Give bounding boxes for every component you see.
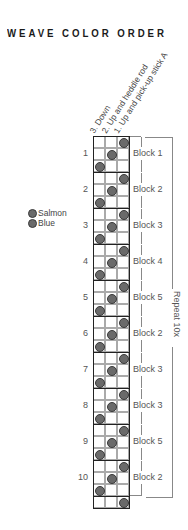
grid-cell — [117, 484, 129, 496]
grid-cell — [93, 280, 105, 292]
grid-cell — [93, 172, 105, 184]
thread-dot-icon — [95, 270, 105, 280]
grid-cell — [105, 268, 117, 280]
block-bracket-line — [141, 484, 142, 496]
grid-cell — [105, 424, 117, 436]
thread-dot-icon — [95, 306, 105, 316]
block-number: 6 — [74, 328, 88, 338]
grid-cell — [117, 232, 129, 244]
grid-cell — [105, 160, 117, 172]
grid-cell — [117, 316, 129, 328]
grid-cell — [117, 220, 129, 232]
thread-dot-icon — [119, 138, 129, 148]
block-number: 1 — [74, 148, 88, 158]
block-label: Block 2 — [133, 184, 163, 194]
grid-cell — [105, 328, 117, 340]
thread-dot-icon — [95, 162, 105, 172]
grid-cell — [105, 184, 117, 196]
thread-dot-icon — [119, 282, 129, 292]
block-label: Block 4 — [133, 256, 163, 266]
thread-dot-icon — [107, 294, 117, 304]
grid-cell — [105, 460, 117, 472]
repeat-label: Repeat 10x — [172, 291, 182, 337]
block-bracket-line — [141, 448, 142, 460]
grid-cell — [105, 220, 117, 232]
block-bracket-line — [141, 160, 142, 172]
grid-cell — [105, 352, 117, 364]
repeat-bracket-bottom — [146, 497, 173, 498]
grid-cell — [105, 172, 117, 184]
grid-cell — [105, 388, 117, 400]
block-bracket-bottom — [130, 495, 141, 496]
grid-cell — [117, 424, 129, 436]
diagram-title: WEAVE COLOR ORDER — [7, 27, 167, 39]
grid-cell — [117, 328, 129, 340]
grid-cell — [93, 220, 105, 232]
grid-cell — [93, 340, 105, 352]
grid-cell — [93, 364, 105, 376]
thread-dot-icon — [95, 198, 105, 208]
thread-dot-icon — [119, 318, 129, 328]
grid-cell — [93, 304, 105, 316]
grid-cell — [105, 400, 117, 412]
legend-item-salmon: Salmon — [28, 208, 67, 218]
block-bracket-line — [141, 376, 142, 388]
block-bracket-line — [141, 304, 142, 316]
block-number: 9 — [74, 436, 88, 446]
thread-dot-icon — [95, 486, 105, 496]
block-bracket-line — [141, 353, 142, 363]
thread-dot-icon — [119, 174, 129, 184]
grid-cell — [93, 496, 105, 508]
grid-cell — [117, 256, 129, 268]
grid-cell — [105, 292, 117, 304]
grid-cell — [117, 172, 129, 184]
grid-cell — [105, 412, 117, 424]
grid-cell — [93, 256, 105, 268]
block-bracket-line — [141, 173, 142, 183]
grid-cell — [117, 196, 129, 208]
block-bracket-top — [130, 136, 141, 137]
grid-cell — [105, 316, 117, 328]
grid-cell — [93, 400, 105, 412]
grid-cell — [117, 208, 129, 220]
block-bracket-line — [141, 425, 142, 435]
grid-cell — [93, 448, 105, 460]
grid-cell — [93, 196, 105, 208]
block-bracket-line — [141, 389, 142, 399]
grid-cell — [93, 412, 105, 424]
block-bracket-line — [141, 317, 142, 327]
block-label: Block 5 — [133, 292, 163, 302]
grid-cell — [105, 496, 117, 508]
grid-cell — [105, 136, 117, 148]
block-bracket-line — [141, 245, 142, 255]
grid-cell — [117, 160, 129, 172]
grid-cell — [117, 292, 129, 304]
grid-cell — [93, 184, 105, 196]
block-number: 10 — [74, 472, 88, 482]
grid-cell — [105, 280, 117, 292]
grid-cell — [117, 400, 129, 412]
grid-cell — [117, 460, 129, 472]
grid-cell — [93, 472, 105, 484]
grid-cell — [93, 328, 105, 340]
grid-cell — [117, 136, 129, 148]
block-label: Block 2 — [133, 472, 163, 482]
grid-cell — [117, 340, 129, 352]
thread-dot-icon — [119, 210, 129, 220]
thread-dot-icon — [107, 186, 117, 196]
grid-cell — [117, 448, 129, 460]
grid-cell — [105, 148, 117, 160]
thread-dot-icon — [119, 426, 129, 436]
grid-cell — [93, 316, 105, 328]
repeat-bracket-vertical-bottom — [172, 347, 173, 498]
grid-cell — [105, 448, 117, 460]
block-bracket-line — [141, 340, 142, 352]
grid-cell — [117, 472, 129, 484]
grid-cell — [93, 460, 105, 472]
grid-cell — [93, 268, 105, 280]
grid-cell — [93, 484, 105, 496]
block-label: Block 3 — [133, 220, 163, 230]
block-label: Block 5 — [133, 436, 163, 446]
thread-dot-icon — [119, 246, 129, 256]
block-bracket-line — [141, 281, 142, 291]
